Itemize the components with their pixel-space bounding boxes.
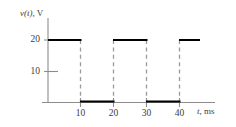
- x-tick-label-20: 20: [104, 109, 124, 119]
- x-tick-label-10: 10: [71, 109, 91, 119]
- x-axis-label: t, ms: [197, 107, 215, 116]
- y-axis-label-unit: , V: [33, 8, 44, 18]
- y-axis-label-var: v(t): [20, 8, 33, 18]
- y-tick-label-10: 10: [22, 67, 40, 77]
- transition-edges: [81, 40, 180, 102]
- figure: v(t), V t, ms 20 10 10 20 30 40: [0, 0, 236, 127]
- y-axis-label: v(t), V: [20, 9, 43, 18]
- y-tick-label-20: 20: [22, 35, 40, 45]
- x-tick-label-40: 40: [170, 109, 190, 119]
- x-tick-label-30: 30: [137, 109, 157, 119]
- x-axis-label-unit: , ms: [200, 106, 215, 116]
- waveform-trace: [48, 40, 200, 102]
